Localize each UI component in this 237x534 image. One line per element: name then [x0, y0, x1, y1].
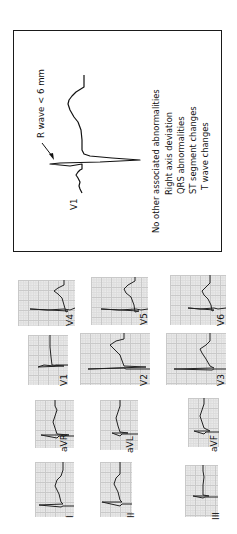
- lead-label-v2: V2: [140, 374, 149, 386]
- criteria-item-right-axis: Right axis deviation: [165, 112, 173, 195]
- lead-panel-ii: [100, 462, 132, 517]
- lead-label-v6: V6: [217, 314, 226, 326]
- lead-panel-i: [35, 462, 74, 517]
- lead-label-v3: V3: [217, 374, 226, 386]
- criteria-item-qrs: QRS abnormalities: [177, 116, 185, 194]
- lead-label-v4: V4: [66, 314, 75, 326]
- inset-lead-label: V1: [70, 199, 79, 210]
- lead-label-avl: aVL: [126, 436, 135, 453]
- lead-label-i: I: [66, 515, 75, 518]
- lead-label-ii: II: [127, 513, 136, 518]
- lead-label-avr: aVR: [60, 434, 69, 452]
- criteria-heading: No other associated abnormalities: [152, 89, 160, 233]
- lead-label-v1: V1: [60, 374, 69, 386]
- lead-panel-iii: [185, 465, 218, 517]
- criteria-item-t-wave: T wave changes: [201, 122, 209, 190]
- lead-label-iii: III: [212, 512, 221, 520]
- criteria-item-st: ST segment changes: [189, 106, 197, 194]
- lead-label-v5: V5: [140, 313, 149, 325]
- lead-label-avf: aVF: [210, 435, 219, 452]
